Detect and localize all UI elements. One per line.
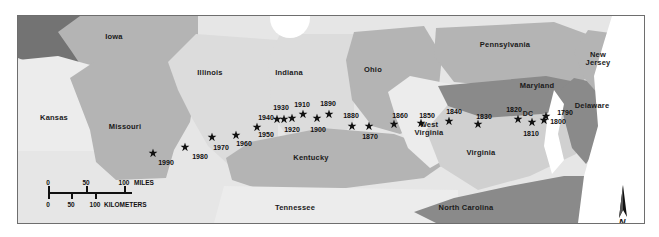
year-label-1800: 1800 xyxy=(550,118,566,125)
scale-label-km-100: 100 xyxy=(90,201,101,208)
state-label-virginia: Virginia xyxy=(467,149,496,157)
state-label-tennessee: Tennessee xyxy=(275,204,315,212)
state-label-north-carolina: North Carolina xyxy=(439,204,494,212)
star-marker-1870 xyxy=(365,122,374,131)
year-label-1910: 1910 xyxy=(294,101,310,108)
star-marker-1960 xyxy=(232,131,241,140)
year-label-1860: 1860 xyxy=(392,112,408,119)
state-label-pennsylvania: Pennsylvania xyxy=(480,41,530,49)
population-center-map: Iowa Kansas Missouri Illinois Indiana Oh… xyxy=(0,0,659,237)
scale-label-miles-100: 100 xyxy=(119,179,130,186)
state-label-kentucky: Kentucky xyxy=(293,154,328,162)
year-label-1930: 1930 xyxy=(273,104,289,111)
year-label-1940: 1940 xyxy=(258,114,274,121)
star-marker-1840 xyxy=(445,117,454,126)
scale-label-miles-50: 50 xyxy=(82,179,89,186)
scale-label-km-0: 0 xyxy=(46,201,50,208)
year-label-1990: 1990 xyxy=(158,159,174,166)
year-label-1830: 1830 xyxy=(476,113,492,120)
star-marker-1920 xyxy=(288,114,297,123)
year-label-1810: 1810 xyxy=(523,130,539,137)
state-label-missouri: Missouri xyxy=(109,123,141,131)
star-marker-1980 xyxy=(181,143,190,152)
state-label-maryland: Maryland xyxy=(520,82,555,90)
star-marker-1970 xyxy=(208,133,217,142)
star-marker-1850 xyxy=(417,119,426,128)
scale-unit-kilometers: KILOMETERS xyxy=(104,201,147,208)
state-label-iowa: Iowa xyxy=(105,33,122,41)
year-label-1980: 1980 xyxy=(192,153,208,160)
star-marker-1860 xyxy=(390,120,399,129)
year-label-1840: 1840 xyxy=(446,108,462,115)
scale-label-km-50: 50 xyxy=(67,201,74,208)
star-marker-1910 xyxy=(299,110,308,119)
star-marker-1890 xyxy=(325,110,334,119)
star-marker-1900 xyxy=(313,114,322,123)
map-frame: Iowa Kansas Missouri Illinois Indiana Oh… xyxy=(17,15,645,224)
state-shape-tennessee xyxy=(214,186,458,223)
scale-tick-miles-50 xyxy=(86,186,88,193)
state-label-ohio: Ohio xyxy=(364,66,382,74)
state-label-new-jersey: New Jersey xyxy=(586,51,611,67)
star-marker-1810 xyxy=(528,118,537,127)
state-label-delaware: Delaware xyxy=(575,102,610,110)
year-label-1920: 1920 xyxy=(284,126,300,133)
state-label-illinois: Illinois xyxy=(197,69,222,77)
star-marker-1820 xyxy=(514,115,523,124)
star-marker-1880 xyxy=(348,122,357,131)
year-label-1890: 1890 xyxy=(320,100,336,107)
state-label-indiana: Indiana xyxy=(275,69,303,77)
year-label-1900: 1900 xyxy=(310,126,326,133)
year-label-1820: 1820 xyxy=(506,106,522,113)
scale-tick-km-100 xyxy=(95,192,97,199)
scale-unit-miles: MILES xyxy=(134,179,154,186)
scale-tick-miles-100 xyxy=(124,186,126,193)
north-arrow: N xyxy=(610,184,636,224)
state-label-kansas: Kansas xyxy=(40,114,68,122)
north-arrow-label: N xyxy=(619,217,626,224)
year-label-1880: 1880 xyxy=(343,112,359,119)
year-label-1970: 1970 xyxy=(213,144,229,151)
year-label-1790: 1790 xyxy=(557,109,573,116)
year-label-1850: 1850 xyxy=(419,112,435,119)
star-marker-1990 xyxy=(149,149,158,158)
scale-bar-line xyxy=(48,192,132,194)
scale-tick-km-50 xyxy=(71,192,73,199)
year-label-1950: 1950 xyxy=(258,131,274,138)
scale-bar: 0 50 100 MILES 0 50 100 KILOMETERS xyxy=(40,182,160,216)
scale-tick-km-0 xyxy=(48,192,50,199)
year-label-1960: 1960 xyxy=(236,140,252,147)
star-marker-1830 xyxy=(474,120,483,129)
year-label-1870: 1870 xyxy=(362,133,378,140)
star-marker-1800 xyxy=(540,116,549,125)
scale-label-miles-0: 0 xyxy=(46,179,50,186)
